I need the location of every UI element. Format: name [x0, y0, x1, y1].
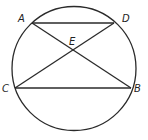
- circle: [12, 7, 136, 131]
- label-a: A: [17, 13, 25, 24]
- geometry-diagram: A D E C B: [0, 0, 148, 140]
- label-c: C: [2, 83, 9, 94]
- chord-cd: [15, 23, 114, 88]
- label-b: B: [134, 83, 141, 94]
- chord-ab: [32, 23, 131, 88]
- label-d: D: [122, 13, 130, 24]
- label-e: E: [69, 36, 76, 47]
